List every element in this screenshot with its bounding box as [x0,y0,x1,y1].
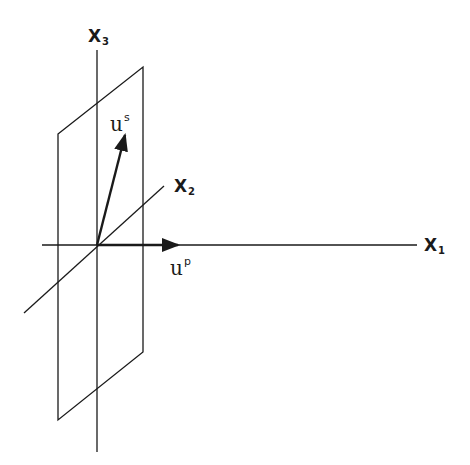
x2-label-sub: 2 [188,186,195,197]
x2-label: X 2 [174,176,195,197]
coordinate-diagram: X 3 X 2 X 1 u s u p [0,0,470,465]
up-label-sup: p [184,255,191,268]
us-label-sup: s [124,111,130,124]
x1-label-sub: 1 [438,245,445,256]
x1-label: X 1 [424,235,445,256]
us-label: u s [110,111,130,136]
up-label: u p [170,255,191,280]
x3-label-sub: 3 [102,36,109,47]
us-label-main: u [110,112,123,136]
up-label-main: u [170,256,183,280]
x1-label-main: X [424,235,437,255]
x2-label-main: X [174,176,187,196]
x3-label-main: X [88,26,101,46]
x3-label: X 3 [88,26,109,47]
us-vector-arrow [97,135,125,245]
